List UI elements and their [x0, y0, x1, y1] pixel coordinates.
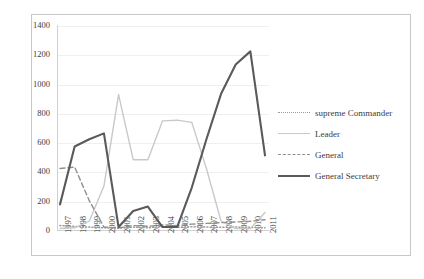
- series-line: [60, 95, 265, 229]
- x-tick-label: 2011: [269, 193, 278, 233]
- y-tick-label: 800: [4, 109, 50, 117]
- legend-swatch-icon: [278, 129, 310, 139]
- legend-item-label: Leader: [315, 129, 340, 139]
- legend-item[interactable]: supreme Commander: [278, 104, 406, 121]
- legend-item-label: General: [315, 150, 343, 160]
- y-tick-label: 400: [4, 167, 50, 175]
- legend-item-label: supreme Commander: [315, 108, 392, 118]
- legend-item[interactable]: Leader: [278, 125, 406, 142]
- y-tick-label: 1000: [4, 80, 50, 88]
- y-tick-label: 0: [4, 226, 50, 234]
- legend-swatch-icon: [278, 171, 310, 181]
- y-tick-label: 600: [4, 138, 50, 146]
- y-tick-label: 1400: [4, 21, 50, 29]
- y-tick-label: 1200: [4, 50, 50, 58]
- legend-swatch-icon: [278, 150, 310, 160]
- y-tick-label: 200: [4, 197, 50, 205]
- series-line: [60, 51, 265, 227]
- chart-legend: supreme CommanderLeaderGeneralGeneral Se…: [278, 104, 406, 188]
- legend-item[interactable]: General Secretary: [278, 167, 406, 184]
- chart-page: 0200400600800100012001400 19971998199920…: [0, 0, 424, 279]
- legend-swatch-icon: [278, 108, 310, 118]
- chart-series-lines: [57, 25, 268, 231]
- legend-item[interactable]: General: [278, 146, 406, 163]
- legend-item-label: General Secretary: [315, 171, 380, 181]
